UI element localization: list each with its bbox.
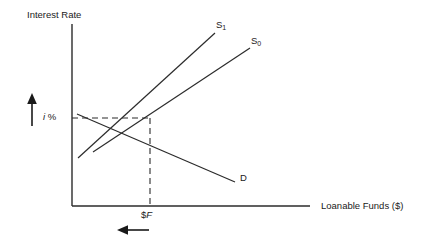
supply-curve-s0 bbox=[93, 48, 250, 152]
equilibrium-quantity-label: $F bbox=[141, 210, 152, 220]
y-axis-title: Interest Rate bbox=[27, 10, 81, 20]
supply-curve-s0-label: S0 bbox=[251, 36, 261, 46]
supply-curve-s0-label-subscript: 0 bbox=[257, 40, 261, 47]
equilibrium-interest-rate-unit: % bbox=[45, 111, 56, 122]
demand-curve-d bbox=[77, 114, 235, 182]
interest-rate-up-arrow-icon bbox=[27, 93, 37, 126]
supply-curve-s1 bbox=[78, 33, 215, 158]
loanable-funds-left-arrow-icon bbox=[117, 225, 149, 235]
supply-curve-s1-label-subscript: 1 bbox=[222, 24, 226, 31]
equilibrium-interest-rate-label: i % bbox=[43, 112, 56, 122]
equilibrium-quantity-symbol: F bbox=[146, 209, 152, 220]
x-axis-title: Loanable Funds ($) bbox=[321, 201, 403, 211]
supply-curve-s1-label: S1 bbox=[216, 20, 226, 30]
demand-curve-label: D bbox=[240, 173, 247, 183]
